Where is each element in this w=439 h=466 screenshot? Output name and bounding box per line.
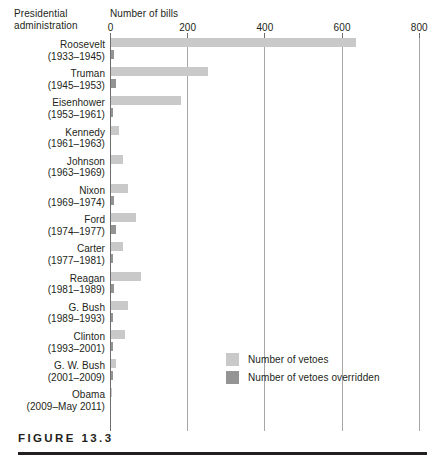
row-label: Ford(1974–1977): [0, 214, 105, 237]
chart-row: Roosevelt(1933–1945): [0, 38, 439, 67]
x-axis-tick-label: 0: [108, 22, 114, 33]
bar-vetoes: [111, 184, 128, 193]
row-axis-title-line1: Presidential: [14, 8, 67, 19]
administration-name: Kennedy: [0, 127, 105, 139]
caption-rule: [18, 452, 427, 455]
bar-vetoes: [111, 301, 128, 310]
chart-row: Ford(1974–1977): [0, 213, 439, 242]
administration-years: (1953–1961): [0, 109, 105, 121]
administration-name: Clinton: [0, 331, 105, 343]
bar-vetoes: [111, 96, 181, 105]
bar-vetoes-overridden: [111, 225, 116, 234]
x-axis-tick-label: 400: [256, 22, 273, 33]
chart-row: Eisenhower(1953–1961): [0, 96, 439, 125]
row-label: Nixon(1969–1974): [0, 185, 105, 208]
row-label: Carter(1977–1981): [0, 243, 105, 266]
chart-row: Truman(1945–1953): [0, 67, 439, 96]
administration-years: (1933–1945): [0, 51, 105, 63]
administration-years: (1989–1993): [0, 313, 105, 325]
row-label: Truman(1945–1953): [0, 68, 105, 91]
legend-label-vetoes: Number of vetoes: [248, 353, 329, 366]
administration-name: Eisenhower: [0, 97, 105, 109]
administration-name: G. Bush: [0, 302, 105, 314]
row-label: Kennedy(1961–1963): [0, 127, 105, 150]
bar-vetoes: [111, 330, 125, 339]
bar-vetoes: [111, 242, 123, 251]
row-label: Johnson(1963–1969): [0, 156, 105, 179]
administration-years: (1993–2001): [0, 343, 105, 355]
chart-row: Clinton(1993–2001): [0, 330, 439, 359]
administration-name: G. W. Bush: [0, 360, 105, 372]
bar-vetoes-overridden: [111, 313, 113, 322]
chart-row: Nixon(1969–1974): [0, 184, 439, 213]
bar-vetoes-overridden: [111, 79, 116, 88]
row-label: Clinton(1993–2001): [0, 331, 105, 354]
administration-years: (2001–2009): [0, 372, 105, 384]
bar-vetoes: [111, 388, 112, 397]
x-axis-tick-label: 200: [179, 22, 196, 33]
administration-name: Truman: [0, 68, 105, 80]
figure-caption: FIGURE 13.3: [18, 432, 113, 444]
chart-row: Carter(1977–1981): [0, 242, 439, 271]
chart-row: G. Bush(1989–1993): [0, 301, 439, 330]
chart-row: Kennedy(1961–1963): [0, 126, 439, 155]
bar-vetoes: [111, 38, 356, 47]
row-label: Roosevelt(1933–1945): [0, 39, 105, 62]
chart-row: Obama(2009–May 2011): [0, 388, 439, 417]
bar-vetoes: [111, 272, 141, 281]
administration-years: (1974–1977): [0, 226, 105, 238]
bar-vetoes-overridden: [111, 50, 114, 59]
bar-vetoes-overridden: [111, 284, 114, 293]
administration-years: (1945–1953): [0, 80, 105, 92]
bar-vetoes-overridden: [111, 196, 114, 205]
row-label: Obama(2009–May 2011): [0, 389, 105, 412]
administration-name: Ford: [0, 214, 105, 226]
administration-years: (1969–1974): [0, 197, 105, 209]
bar-vetoes-overridden: [111, 108, 113, 117]
bar-vetoes-overridden: [111, 342, 113, 351]
legend-swatch-overridden: [226, 371, 239, 384]
bar-vetoes: [111, 213, 136, 222]
bar-vetoes-overridden: [111, 371, 113, 380]
chart-row: Reagan(1981–1989): [0, 272, 439, 301]
administration-years: (1961–1963): [0, 138, 105, 150]
administration-name: Carter: [0, 243, 105, 255]
bar-vetoes: [111, 126, 119, 135]
legend-label-overridden: Number of vetoes overridden: [248, 371, 380, 384]
bar-vetoes: [111, 359, 116, 368]
x-axis-tick-label: 800: [411, 22, 428, 33]
legend-swatch-vetoes: [226, 353, 239, 366]
bar-vetoes: [111, 155, 123, 164]
administration-years: (1981–1989): [0, 284, 105, 296]
administration-years: (1963–1969): [0, 167, 105, 179]
administration-years: (2009–May 2011): [0, 401, 105, 413]
x-axis-tick-label: 600: [334, 22, 351, 33]
row-label: Eisenhower(1953–1961): [0, 97, 105, 120]
row-label: Reagan(1981–1989): [0, 273, 105, 296]
row-axis-title-line2: administration: [14, 20, 78, 31]
administration-name: Nixon: [0, 185, 105, 197]
bar-vetoes: [111, 67, 208, 76]
row-label: G. W. Bush(2001–2009): [0, 360, 105, 383]
administration-name: Johnson: [0, 156, 105, 168]
row-axis-title: Presidential administration: [14, 8, 110, 31]
bar-vetoes-overridden: [111, 254, 113, 263]
administration-name: Obama: [0, 389, 105, 401]
administration-name: Roosevelt: [0, 39, 105, 51]
row-label: G. Bush(1989–1993): [0, 302, 105, 325]
chart-row: Johnson(1963–1969): [0, 155, 439, 184]
value-axis-title: Number of bills: [110, 8, 178, 20]
administration-name: Reagan: [0, 273, 105, 285]
administration-years: (1977–1981): [0, 255, 105, 267]
figure-13-3: Presidential administration Number of bi…: [0, 0, 439, 466]
